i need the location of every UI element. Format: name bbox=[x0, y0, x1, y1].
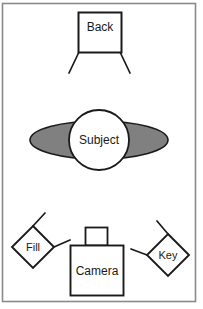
camera-label: Camera bbox=[76, 264, 119, 278]
lighting-diagram-canvas: Back Subject Fill Camera bbox=[0, 0, 203, 309]
key-light-label: Key bbox=[159, 249, 178, 261]
lighting-diagram-svg: Back Subject Fill Camera bbox=[0, 0, 203, 309]
camera-lens bbox=[86, 228, 108, 246]
back-light-label: Back bbox=[87, 20, 115, 34]
fill-light-label: Fill bbox=[26, 241, 40, 253]
subject-label: Subject bbox=[79, 133, 120, 147]
